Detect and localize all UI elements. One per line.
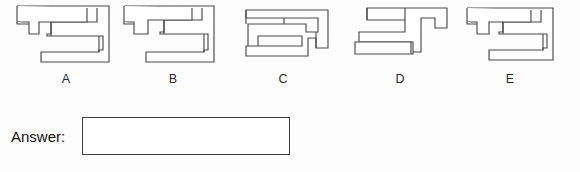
zigzag-maze-shape-e	[455, 2, 565, 68]
option-b-label: B	[118, 72, 228, 86]
option-c[interactable]: C	[228, 0, 338, 100]
answer-input[interactable]	[82, 117, 290, 155]
zigzag-maze-shape-d	[345, 2, 455, 68]
option-a[interactable]: A	[11, 0, 121, 100]
option-e-label: E	[455, 72, 565, 86]
zigzag-maze-shape-c	[228, 2, 338, 68]
option-a-label: A	[11, 72, 121, 86]
worksheet-page: A B	[0, 0, 580, 172]
option-b[interactable]: B	[118, 0, 228, 100]
zigzag-maze-shape-a	[11, 2, 121, 68]
option-d[interactable]: D	[345, 0, 455, 100]
answer-row: Answer:	[0, 112, 580, 168]
option-d-label: D	[345, 72, 455, 86]
answer-options-row: A B	[0, 0, 580, 100]
zigzag-maze-shape-b	[118, 2, 228, 68]
answer-label: Answer:	[11, 128, 65, 145]
option-e[interactable]: E	[455, 0, 565, 100]
option-c-label: C	[228, 72, 338, 86]
